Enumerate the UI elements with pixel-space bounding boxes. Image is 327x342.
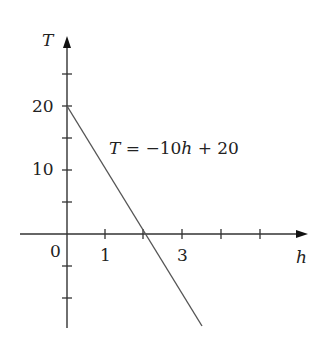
y-tick-label-10: 10 xyxy=(32,159,54,179)
x-axis-arrow-icon xyxy=(296,230,308,238)
y-axis-arrow-icon xyxy=(63,36,71,48)
equation-annotation: T = −10h + 20 xyxy=(109,138,239,158)
origin-label: 0 xyxy=(50,241,61,261)
x-axis-label: h xyxy=(296,247,307,267)
x-tick-label-3: 3 xyxy=(177,245,188,265)
y-tick-label-20: 20 xyxy=(32,96,54,116)
x-tick-label-1: 1 xyxy=(100,245,111,265)
y-axis-label: T xyxy=(42,30,55,50)
chart: T h 0 1 3 20 10 T = −10h + 20 xyxy=(0,0,327,342)
